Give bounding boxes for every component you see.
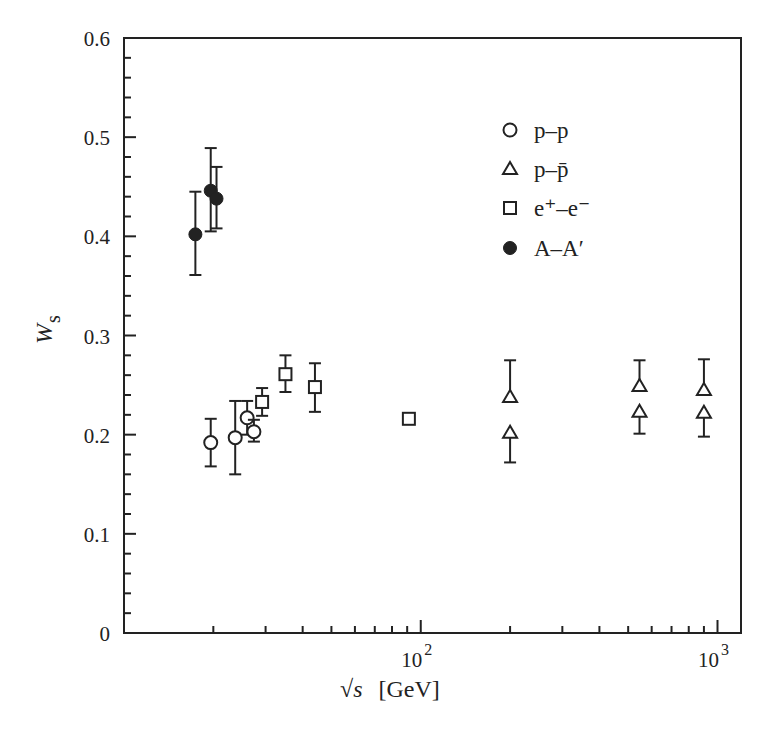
data-point [633, 360, 647, 391]
y-tick-label: 0 [100, 622, 111, 646]
data-point [503, 426, 517, 463]
scatter-chart: 00.10.20.30.40.50.6 102103 p–pp–p̄e⁺–e⁻A… [0, 0, 772, 738]
legend-item: e⁺–e⁻ [504, 196, 590, 221]
legend-label: A–A′ [534, 236, 584, 261]
data-point [697, 359, 711, 395]
y-tick-label: 0.5 [84, 126, 110, 150]
series-open-square [256, 355, 415, 424]
filled-circle-marker [210, 192, 223, 205]
data-point [633, 405, 647, 434]
open-triangle-marker [697, 383, 711, 395]
y-axis-title: Ws [31, 315, 64, 344]
open-circle-marker [229, 431, 242, 444]
legend-item: A–A′ [504, 236, 584, 261]
x-axis-sqrt-symbol: √ [340, 676, 354, 702]
y-tick-label: 0.4 [84, 225, 111, 249]
open-square-marker [256, 396, 268, 408]
legend-label: p–p̄ [534, 157, 569, 182]
legend-open-triangle-icon [503, 162, 517, 174]
legend-open-square-icon [504, 202, 516, 214]
plot-border [124, 38, 741, 633]
data-point [697, 406, 711, 437]
open-triangle-marker [503, 390, 517, 402]
open-triangle-marker [503, 426, 517, 438]
open-square-marker [279, 368, 291, 380]
open-triangle-marker [697, 406, 711, 418]
legend-filled-circle-icon [504, 242, 517, 255]
legend: p–pp–p̄e⁺–e⁻A–A′ [503, 118, 590, 261]
y-axis-title-sub: s [42, 315, 64, 323]
y-tick-label: 0.3 [84, 325, 110, 349]
open-square-marker [309, 381, 321, 393]
y-axis-ticks: 00.10.20.30.40.50.6 [84, 27, 136, 646]
legend-item: p–p̄ [503, 157, 569, 182]
legend-label: e⁺–e⁻ [534, 196, 590, 221]
data-point [229, 401, 242, 474]
legend-open-circle-icon [504, 124, 517, 137]
open-triangle-marker [633, 405, 647, 417]
filled-circle-marker [189, 228, 202, 241]
x-axis-ticks: 102103 [213, 620, 729, 672]
data-point [503, 360, 517, 402]
data-point [309, 363, 321, 412]
open-square-marker [403, 413, 415, 425]
series-open-triangle [503, 359, 711, 462]
data-point [403, 413, 415, 425]
y-tick-label: 0.6 [84, 27, 110, 51]
series-filled-circle [189, 148, 223, 275]
x-tick-label: 102 [401, 641, 432, 672]
y-tick-label: 0.2 [84, 424, 110, 448]
legend-label: p–p [534, 118, 569, 143]
data-point [210, 167, 223, 228]
data-point [204, 148, 217, 231]
y-tick-label: 0.1 [84, 523, 110, 547]
open-circle-marker [247, 425, 260, 438]
x-axis-unit: [GeV] [379, 676, 440, 702]
data-points [189, 148, 711, 474]
x-axis-title: √s[GeV] [340, 676, 440, 702]
data-point [189, 192, 202, 275]
data-point [204, 419, 217, 467]
x-tick-label: 103 [698, 641, 729, 672]
y-axis-title-main: W [31, 322, 57, 344]
data-point [256, 388, 268, 416]
open-circle-marker [241, 411, 254, 424]
series-open-circle [204, 401, 260, 474]
plot-frame [124, 38, 741, 633]
open-triangle-marker [633, 379, 647, 391]
x-axis-variable: s [353, 676, 362, 702]
data-point [279, 355, 291, 392]
legend-item: p–p [504, 118, 569, 143]
open-circle-marker [204, 436, 217, 449]
